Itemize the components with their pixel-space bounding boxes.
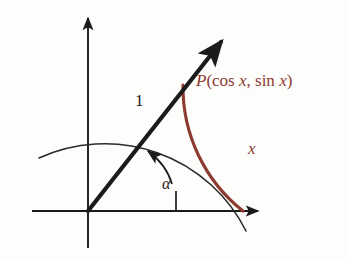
point-p-paren-close: ) [287,71,293,90]
point-p-letter: P [196,71,206,90]
point-p-comma: , [247,71,256,90]
arc-length-label: x [248,140,256,157]
arc-length-x-curve [183,85,243,211]
radius-ray [88,42,221,211]
sin-argument: x [279,71,287,90]
radius-length-label: 1 [135,92,144,109]
unit-circle-arc [39,144,246,231]
angle-alpha-label: α [162,176,170,192]
sin-function-name: sin [255,71,275,90]
figure-canvas [0,0,348,259]
point-p-label: P(cos x, sin x) [196,72,292,89]
cos-argument: x [239,71,247,90]
cos-function-name: cos [212,71,235,90]
unit-circle-figure: 1 α x P(cos x, sin x) [0,0,348,259]
